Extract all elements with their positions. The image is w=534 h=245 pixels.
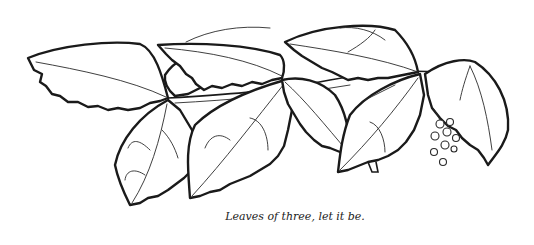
leaf-lower-center <box>188 80 292 198</box>
caption: Leaves of three, let it be. <box>0 210 534 223</box>
leaf-lower-left <box>115 100 196 205</box>
illustration-page: Leaves of three, let it be. <box>0 0 534 245</box>
leaf-center-right <box>282 79 350 155</box>
leaf-right-lower <box>338 74 424 172</box>
leaf-top-right <box>285 26 418 80</box>
leaf-far-right <box>425 60 508 165</box>
leaf-left-top <box>28 43 168 110</box>
poison-ivy-drawing <box>0 0 534 245</box>
caption-text: Leaves of three, let it be. <box>225 210 365 223</box>
